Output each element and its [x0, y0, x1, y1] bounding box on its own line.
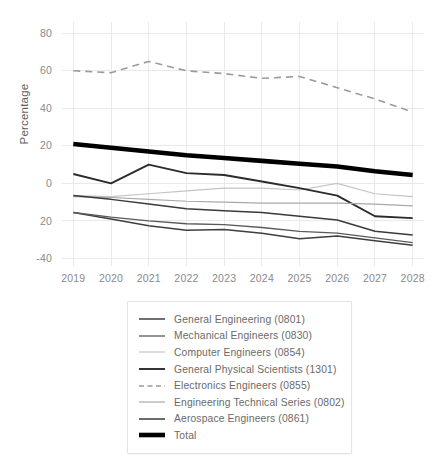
y-tick-label: 60	[40, 64, 52, 76]
x-tick-label: 2021	[137, 272, 161, 284]
x-tick-label: 2019	[61, 272, 85, 284]
y-tick-label: 80	[40, 27, 52, 39]
legend-swatch-0801	[139, 313, 165, 325]
legend-item-0801[interactable]: General Engineering (0801)	[139, 311, 341, 328]
legend-label: General Engineering (0801)	[174, 314, 305, 325]
y-tick-label: 0	[46, 177, 52, 189]
chart-figure: Percentage 80604020020-40 20192020202120…	[0, 0, 438, 469]
legend-swatch-0802	[139, 396, 165, 408]
legend-swatch-0855	[139, 380, 165, 392]
legend-item-0802[interactable]: Engineering Technical Series (0802)	[139, 394, 341, 411]
legend-label: Engineering Technical Series (0802)	[174, 397, 344, 408]
y-tick-label: 40	[40, 102, 52, 114]
legend-swatch-0830	[139, 330, 165, 342]
x-tick-label: 2024	[250, 272, 274, 284]
y-tick-labels: 80604020020-40	[36, 27, 52, 264]
legend-item-0830[interactable]: Mechanical Engineers (0830)	[139, 328, 341, 345]
series-line-0854	[73, 183, 412, 196]
y-gridlines	[62, 33, 424, 258]
legend-item-total[interactable]: Total	[139, 427, 341, 444]
legend-swatch-0861	[139, 413, 165, 425]
x-tick-label: 2028	[401, 272, 425, 284]
x-tick-label: 2025	[287, 272, 311, 284]
x-tick-label: 2023	[212, 272, 236, 284]
series-line-0855	[73, 61, 412, 112]
legend-swatch-1301	[139, 363, 165, 375]
legend-label: Electronics Engineers (0855)	[174, 380, 310, 391]
legend-item-1301[interactable]: General Physical Scientists (1301)	[139, 361, 341, 378]
line-chart-canvas: 80604020020-40 2019202020212022202320242…	[0, 0, 438, 296]
legend-item-0861[interactable]: Aerospace Engineers (0861)	[139, 411, 341, 428]
x-gridlines	[73, 22, 412, 266]
legend-item-0854[interactable]: Computer Engineers (0854)	[139, 344, 341, 361]
chart-legend: General Engineering (0801)Mechanical Eng…	[127, 301, 352, 454]
series-line-1301	[73, 165, 412, 218]
y-tick-label: 20	[40, 139, 52, 151]
legend-label: Mechanical Engineers (0830)	[174, 330, 312, 341]
legend-label: Total	[174, 430, 197, 441]
legend-label: Computer Engineers (0854)	[174, 347, 305, 358]
legend-swatch-0854	[139, 346, 165, 358]
x-tick-label: 2027	[363, 272, 387, 284]
legend-swatch-total	[139, 429, 165, 441]
series-line-0861	[73, 196, 412, 235]
y-tick-label: -40	[36, 252, 52, 264]
series-line-0801	[73, 213, 412, 246]
legend-item-0855[interactable]: Electronics Engineers (0855)	[139, 377, 341, 394]
series-lines	[73, 61, 412, 245]
x-tick-label: 2026	[325, 272, 349, 284]
series-line-total	[73, 144, 412, 175]
legend-label: General Physical Scientists (1301)	[174, 364, 336, 375]
x-tick-label: 2020	[99, 272, 123, 284]
y-tick-label: 20	[40, 215, 52, 227]
x-tick-labels: 2019202020212022202320242025202620272028	[61, 272, 425, 284]
legend-label: Aerospace Engineers (0861)	[174, 413, 309, 424]
plot-area: Percentage 80604020020-40 20192020202120…	[0, 0, 438, 296]
x-tick-label: 2022	[174, 272, 198, 284]
